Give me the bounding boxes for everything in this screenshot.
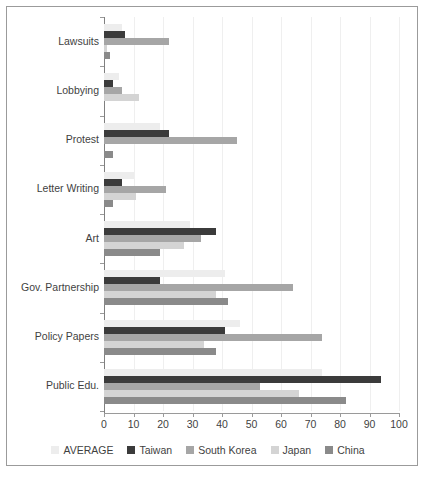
legend-swatch-icon xyxy=(325,446,333,454)
value-tick-label: 60 xyxy=(266,419,296,430)
category-label: Letter Writing xyxy=(37,183,99,194)
category-axis-labels: LawsuitsLobbyingProtestLetter WritingArt… xyxy=(7,7,99,411)
value-tick-label: 50 xyxy=(237,419,267,430)
value-tick-label: 30 xyxy=(178,419,208,430)
bar[interactable] xyxy=(104,327,225,334)
legend-label: China xyxy=(337,445,364,456)
chart-frame: LawsuitsLobbyingProtestLetter WritingArt… xyxy=(6,6,418,466)
legend-item[interactable]: Taiwan xyxy=(127,445,172,456)
legend-item[interactable]: AVERAGE xyxy=(51,445,113,456)
category-label: Art xyxy=(86,233,99,244)
value-axis: 0102030405060708090100 xyxy=(104,413,404,435)
bar[interactable] xyxy=(104,298,228,305)
bar[interactable] xyxy=(104,130,169,137)
bar[interactable] xyxy=(104,186,166,193)
value-tick-mark-10 xyxy=(134,413,135,417)
value-tick-mark-80 xyxy=(340,413,341,417)
bar[interactable] xyxy=(104,235,201,242)
bar-group xyxy=(104,24,400,59)
value-tick-mark-70 xyxy=(311,413,312,417)
category-label: Lawsuits xyxy=(58,36,99,47)
bar[interactable] xyxy=(104,193,136,200)
value-tick-mark-90 xyxy=(370,413,371,417)
bar[interactable] xyxy=(104,172,134,179)
bar[interactable] xyxy=(104,341,204,348)
bar[interactable] xyxy=(104,45,107,52)
bar-group xyxy=(104,123,400,158)
value-tick-mark-20 xyxy=(163,413,164,417)
bar[interactable] xyxy=(104,80,113,87)
bar[interactable] xyxy=(104,376,381,383)
bar-group xyxy=(104,73,400,108)
legend-item[interactable]: China xyxy=(325,445,364,456)
bar-group xyxy=(104,221,400,256)
bar[interactable] xyxy=(104,228,216,235)
bar[interactable] xyxy=(104,87,122,94)
bar[interactable] xyxy=(104,151,113,158)
chart-legend: AVERAGETaiwanSouth KoreaJapanChina xyxy=(15,441,415,459)
bar[interactable] xyxy=(104,277,160,284)
bar[interactable] xyxy=(104,38,169,45)
category-label: Lobbying xyxy=(56,85,99,96)
bar[interactable] xyxy=(104,390,299,397)
legend-swatch-icon xyxy=(271,446,279,454)
category-label: Public Edu. xyxy=(46,380,99,391)
value-tick-mark-0 xyxy=(104,413,105,417)
bar-group xyxy=(104,369,400,404)
bar[interactable] xyxy=(104,123,160,130)
value-tick-label: 70 xyxy=(296,419,326,430)
bar[interactable] xyxy=(104,73,119,80)
value-tick-mark-50 xyxy=(252,413,253,417)
bar[interactable] xyxy=(104,242,184,249)
value-tick-label: 10 xyxy=(119,419,149,430)
legend-label: South Korea xyxy=(198,445,256,456)
bar[interactable] xyxy=(104,137,237,144)
value-tick-label: 100 xyxy=(384,419,414,430)
value-tick-label: 80 xyxy=(325,419,355,430)
bar[interactable] xyxy=(104,24,122,31)
value-tick-label: 90 xyxy=(355,419,385,430)
bar[interactable] xyxy=(104,383,260,390)
bars-region xyxy=(104,17,400,411)
bar[interactable] xyxy=(104,348,216,355)
legend-swatch-icon xyxy=(127,446,135,454)
bar-group xyxy=(104,320,400,355)
bar[interactable] xyxy=(104,221,190,228)
category-label: Protest xyxy=(66,134,99,145)
bar[interactable] xyxy=(104,369,322,376)
category-label: Policy Papers xyxy=(35,331,99,342)
value-tick-label: 20 xyxy=(148,419,178,430)
legend-swatch-icon xyxy=(51,446,59,454)
plot-area: LawsuitsLobbyingProtestLetter WritingArt… xyxy=(7,7,419,467)
value-tick-mark-60 xyxy=(281,413,282,417)
legend-label: Japan xyxy=(283,445,312,456)
legend-item[interactable]: South Korea xyxy=(186,445,256,456)
bar[interactable] xyxy=(104,320,240,327)
bar[interactable] xyxy=(104,249,160,256)
bar-group xyxy=(104,270,400,305)
bar[interactable] xyxy=(104,284,293,291)
value-tick-label: 0 xyxy=(89,419,119,430)
value-tick-mark-100 xyxy=(399,413,400,417)
bar[interactable] xyxy=(104,52,110,59)
legend-label: Taiwan xyxy=(139,445,172,456)
bar[interactable] xyxy=(104,94,139,101)
bar[interactable] xyxy=(104,200,113,207)
bar-group xyxy=(104,172,400,207)
bar[interactable] xyxy=(104,334,322,341)
legend-label: AVERAGE xyxy=(63,445,113,456)
bar[interactable] xyxy=(104,291,216,298)
bar[interactable] xyxy=(104,179,122,186)
legend-swatch-icon xyxy=(186,446,194,454)
bar[interactable] xyxy=(104,31,125,38)
value-tick-mark-40 xyxy=(222,413,223,417)
value-tick-mark-30 xyxy=(193,413,194,417)
bar[interactable] xyxy=(104,270,225,277)
value-tick-label: 40 xyxy=(207,419,237,430)
legend-item[interactable]: Japan xyxy=(271,445,312,456)
category-label: Gov. Partnership xyxy=(21,282,99,293)
bar[interactable] xyxy=(104,397,346,404)
